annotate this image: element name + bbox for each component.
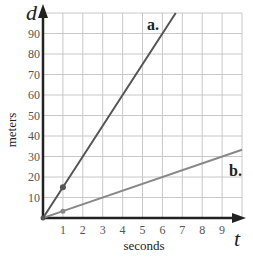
y-tick-label: 90 bbox=[28, 27, 40, 41]
origin-point bbox=[41, 216, 46, 221]
x-tick-label: 7 bbox=[179, 223, 185, 237]
y-tick-label: 50 bbox=[28, 109, 40, 123]
series-layer bbox=[41, 13, 243, 221]
y-axis-arrow-icon bbox=[38, 4, 48, 18]
data-point-marker bbox=[60, 209, 65, 214]
x-tick-label: 2 bbox=[80, 223, 86, 237]
x-tick-label: 3 bbox=[100, 223, 106, 237]
y-tick-label: 30 bbox=[28, 150, 40, 164]
y-tick-labels: 102030405060708090 bbox=[28, 27, 40, 205]
y-variable-label: d bbox=[26, 0, 38, 25]
x-tick-label: 5 bbox=[140, 223, 146, 237]
x-tick-label: 4 bbox=[120, 223, 126, 237]
grid bbox=[43, 13, 242, 218]
data-point-marker bbox=[60, 184, 66, 190]
y-tick-label: 80 bbox=[28, 47, 40, 61]
y-tick-label: 20 bbox=[28, 170, 40, 184]
distance-time-chart: 102030405060708090 123456789 d t seconds… bbox=[0, 0, 253, 259]
y-tick-label: 70 bbox=[28, 68, 40, 82]
y-tick-label: 10 bbox=[28, 191, 40, 205]
x-tick-label: 9 bbox=[219, 223, 225, 237]
series-a-label: a. bbox=[147, 16, 159, 33]
x-variable-label: t bbox=[234, 226, 241, 251]
x-axis-title: seconds bbox=[123, 238, 164, 253]
x-tick-label: 1 bbox=[60, 223, 66, 237]
x-axis-arrow-icon bbox=[232, 213, 246, 223]
y-tick-label: 60 bbox=[28, 88, 40, 102]
x-tick-label: 6 bbox=[159, 223, 165, 237]
y-tick-label: 40 bbox=[28, 129, 40, 143]
x-tick-labels: 123456789 bbox=[60, 223, 225, 237]
series-b-label: b. bbox=[229, 162, 242, 179]
y-axis-title: meters bbox=[4, 113, 19, 148]
x-tick-label: 8 bbox=[199, 223, 205, 237]
